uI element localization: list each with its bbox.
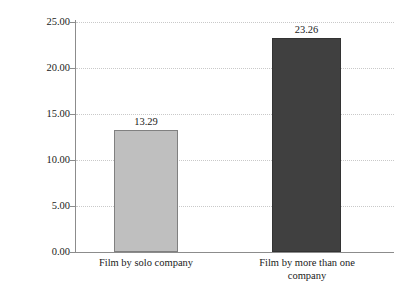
x-category-label-1: Film by solo company: [86, 256, 206, 269]
x-category-label-1-line1: Film by solo company: [86, 256, 206, 269]
bar-film-by-more-than-one-company[interactable]: [272, 38, 341, 252]
x-category-label-2-line2: company: [246, 269, 368, 282]
bar-film-by-solo-company[interactable]: [114, 130, 178, 252]
x-category-label-2-line1: Film by more than one: [246, 256, 368, 269]
plot-area: 13.29 23.26: [0, 0, 403, 295]
bar-value-label-2: 23.26: [272, 24, 341, 36]
bar-value-label-1: 13.29: [114, 116, 178, 128]
x-category-label-2: Film by more than one company: [246, 256, 368, 282]
bar-chart: Average revenue (million USD) 25.00 20.0…: [0, 0, 403, 295]
